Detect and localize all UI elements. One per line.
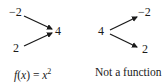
caption-equals: = [30, 69, 42, 81]
left-arrows [24, 16, 52, 46]
right-input-4: 4 [98, 25, 104, 37]
right-arrows [110, 17, 137, 47]
left-input-neg2: −2 [9, 6, 22, 18]
caption-exponent: 2 [47, 67, 51, 76]
right-output-neg2: −2 [138, 6, 151, 18]
right-caption: Not a function [95, 66, 161, 78]
right-output-2: 2 [142, 43, 148, 55]
left-input-2: 2 [13, 42, 19, 54]
left-caption: f(x) = x2 [14, 66, 51, 81]
left-output-4: 4 [55, 25, 61, 37]
